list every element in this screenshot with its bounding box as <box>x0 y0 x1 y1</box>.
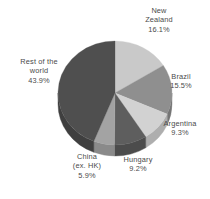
slice-label-hungary: Hungary 9.2% <box>112 155 164 174</box>
slice-label-name-line1: Brazil <box>156 72 206 81</box>
slice-label-value: 9.2% <box>112 164 164 173</box>
slice-label-value: 5.9% <box>60 171 114 180</box>
slice-label-new-zealand: New Zealand 16.1% <box>128 6 190 34</box>
slice-label-china: China (ex. HK) 5.9% <box>60 152 114 180</box>
slice-label-name-line2: world <box>8 66 70 75</box>
slice-label-name-line1: China <box>60 152 114 161</box>
slice-label-name-line1: New <box>128 6 190 15</box>
slice-label-argentina: Argentina 9.3% <box>152 119 208 138</box>
slice-label-rest-of-the-world: Rest of the world 43.9% <box>8 57 70 85</box>
slice-label-value: 9.3% <box>152 128 208 137</box>
slice-label-brazil: Brazil 15.5% <box>156 72 206 91</box>
slice-label-name-line1: Rest of the <box>8 57 70 66</box>
slice-label-name-line2: (ex. HK) <box>60 161 114 170</box>
slice-label-name-line2: Zealand <box>128 15 190 24</box>
slice-label-name-line1: Argentina <box>152 119 208 128</box>
slice-label-name-line1: Hungary <box>112 155 164 164</box>
slice-label-value: 43.9% <box>8 76 70 85</box>
slice-label-value: 16.1% <box>128 25 190 34</box>
slice-label-value: 15.5% <box>156 81 206 90</box>
pie-chart: New Zealand 16.1% Brazil 15.5% Argentina… <box>0 0 210 199</box>
